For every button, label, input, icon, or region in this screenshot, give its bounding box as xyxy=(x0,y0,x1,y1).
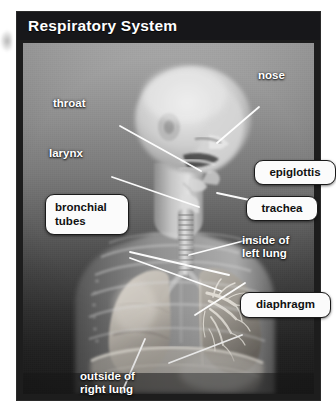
label-throat: throat xyxy=(53,97,125,110)
label-inside-of-left-lung: inside of left lung xyxy=(242,234,328,259)
scan-artifact xyxy=(0,30,12,52)
label-box-epiglottis: epiglottis xyxy=(254,160,336,185)
label-box-diaphragm: diaphragm xyxy=(240,292,331,318)
label-nose: nose xyxy=(258,69,318,82)
respiratory-system-figure: Respiratory System xyxy=(17,12,320,400)
label-box-trachea: trachea xyxy=(246,196,318,221)
label-larynx: larynx xyxy=(49,147,121,160)
label-box-bronchial-tubes: bronchial tubes xyxy=(45,194,129,235)
figure-title-bar: Respiratory System xyxy=(17,12,320,40)
figure-title: Respiratory System xyxy=(28,17,177,35)
label-outside-of-right-lung: outside of right lung xyxy=(80,370,184,395)
